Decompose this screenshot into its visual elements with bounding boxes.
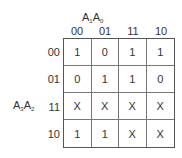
kmap-cell: 1 xyxy=(119,39,147,66)
kmap-cell: 0 xyxy=(92,39,120,66)
kmap-cell: 0 xyxy=(147,66,175,93)
kmap-cell: 1 xyxy=(147,39,175,66)
var-a0: A xyxy=(93,11,100,23)
kmap-cell: 1 xyxy=(64,120,92,147)
row-header: 01 xyxy=(38,73,60,85)
var-a2: A xyxy=(24,99,31,111)
row-header: 00 xyxy=(38,46,60,58)
kmap-cell: X xyxy=(147,93,175,120)
kmap-cell: 1 xyxy=(64,39,92,66)
row-header: 10 xyxy=(38,128,60,140)
kmap-cell: X xyxy=(119,93,147,120)
column-header: 10 xyxy=(147,25,175,37)
subscript: 0 xyxy=(100,18,103,24)
row-header: 11 xyxy=(38,101,60,113)
column-variables-label: A1A0 xyxy=(82,11,103,24)
kmap-cell: 0 xyxy=(64,66,92,93)
kmap-cell: X xyxy=(92,93,120,120)
kmap-cell: 1 xyxy=(92,66,120,93)
kmap-cell: X xyxy=(64,93,92,120)
column-header: 11 xyxy=(119,25,147,37)
karnaugh-map-grid: 1 0 1 1 0 1 1 0 X X X X 1 1 X X xyxy=(63,38,175,148)
column-header: 00 xyxy=(63,25,91,37)
column-header: 01 xyxy=(91,25,119,37)
row-variables-label: A3A2 xyxy=(13,99,34,112)
kmap-cell: 1 xyxy=(92,120,120,147)
subscript: 2 xyxy=(31,106,34,112)
kmap-cell: X xyxy=(119,120,147,147)
kmap-cell: 1 xyxy=(119,66,147,93)
kmap-cell: X xyxy=(147,120,175,147)
